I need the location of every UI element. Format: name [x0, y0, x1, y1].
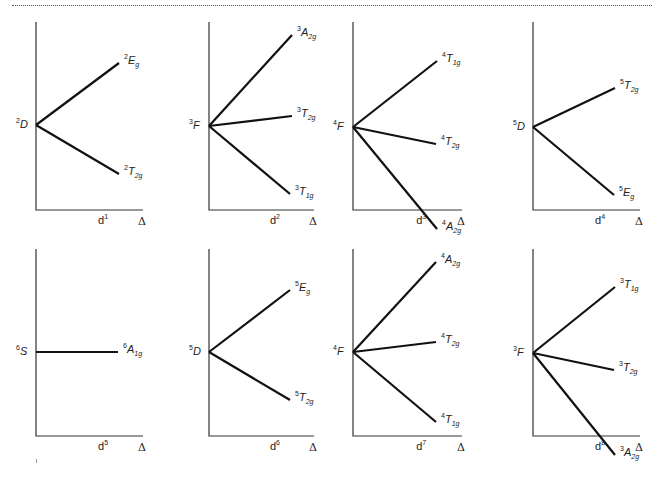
term-label-4T1g: 4T1g [442, 53, 460, 64]
term-label-5Eg: 5Eg [619, 187, 634, 198]
free-ion-term-4F: 4F [333, 346, 344, 357]
term-label-3T2g: 3T2g [619, 362, 637, 373]
delta-axis-label: Δ [635, 216, 643, 227]
level-line-A2g [353, 262, 436, 352]
level-line-Eg [209, 290, 290, 352]
level-line-T2g [353, 342, 436, 352]
level-line-Eg [36, 63, 119, 125]
free-ion-term-2D: 2D [16, 119, 28, 130]
term-label-5Eg: 5Eg [295, 282, 310, 293]
level-line-T2g [36, 125, 119, 174]
orgel-diagram-canvas [0, 0, 661, 484]
stray-mark [36, 459, 37, 463]
config-label-d3: d3 [416, 215, 426, 226]
level-line-T1g [353, 352, 436, 422]
term-label-4A2g: 4A2g [441, 254, 460, 265]
panel-d6 [209, 249, 314, 436]
level-line-A2g [209, 35, 292, 126]
config-label-d1: d1 [98, 215, 108, 226]
level-line-T2g [533, 88, 615, 127]
level-line-T1g [533, 287, 615, 353]
config-label-d7: d7 [416, 441, 426, 452]
free-ion-term-3F: 3F [513, 347, 524, 358]
config-label-d4: d4 [595, 215, 605, 226]
delta-axis-label: Δ [138, 442, 146, 453]
config-label-d5: d5 [98, 441, 108, 452]
delta-axis-label: Δ [457, 442, 465, 453]
free-ion-term-6S: 6S [16, 346, 27, 357]
config-label-d2: d2 [270, 215, 280, 226]
free-ion-term-4F: 4F [333, 121, 344, 132]
free-ion-term-3F: 3F [189, 120, 200, 131]
delta-axis-label: Δ [457, 216, 465, 227]
level-line-T2g [209, 352, 290, 400]
term-label-4T1g: 4T1g [441, 414, 459, 425]
delta-axis-label: Δ [138, 216, 146, 227]
free-ion-term-5D: 5D [513, 121, 525, 132]
term-label-4T2g: 4T2g [441, 334, 459, 345]
axis [209, 249, 314, 436]
term-label-3T1g: 3T1g [620, 279, 638, 290]
term-label-2T2g: 2T2g [124, 166, 142, 177]
delta-axis-label: Δ [635, 442, 643, 453]
term-label-5T2g: 5T2g [295, 392, 313, 403]
term-label-3T1g: 3T1g [295, 186, 313, 197]
term-label-5T2g: 5T2g [620, 80, 638, 91]
term-label-3T2g: 3T2g [297, 108, 315, 119]
delta-axis-label: Δ [309, 216, 317, 227]
term-label-6A1g: 6A1g [123, 344, 142, 355]
config-label-d6: d6 [270, 441, 280, 452]
axis [36, 22, 143, 210]
level-line-T1g [353, 61, 437, 127]
config-label-d8: d8 [595, 441, 605, 452]
delta-axis-label: Δ [309, 442, 317, 453]
level-line-T2g [209, 116, 292, 126]
axis [533, 22, 640, 210]
panel-d4 [533, 22, 640, 210]
term-label-2Eg: 2Eg [124, 55, 139, 66]
term-label-4T2g: 4T2g [441, 136, 459, 147]
free-ion-term-5D: 5D [189, 346, 201, 357]
level-line-T1g [209, 126, 290, 194]
term-label-3A2g: 3A2g [297, 27, 316, 38]
level-line-Eg [533, 127, 614, 195]
panel-d1 [36, 22, 143, 210]
